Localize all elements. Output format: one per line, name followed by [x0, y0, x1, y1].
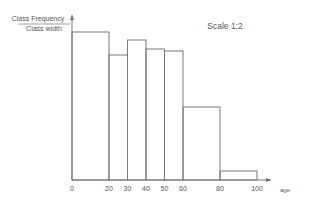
x-tick-label: 50 [161, 185, 169, 192]
x-tick-label: 100 [251, 185, 263, 192]
x-tick-label: 20 [105, 185, 113, 192]
y-axis-arrow-icon [70, 14, 74, 20]
x-tick-label: 80 [216, 185, 224, 192]
x-tick-label: 0 [70, 185, 74, 192]
histogram-chart: 0203040506080100ageClass FrequencyClass … [0, 0, 314, 201]
histogram-bar [165, 51, 184, 180]
scale-annotation: Scale 1:2 [207, 21, 243, 31]
histogram-bar [128, 40, 147, 180]
y-axis-label-numerator: Class Frequency [12, 15, 65, 23]
x-tick-label: 30 [124, 185, 132, 192]
y-axis-label-denominator: Class width [26, 25, 62, 32]
histogram-bar [220, 171, 257, 180]
x-tick-label: 60 [179, 185, 187, 192]
histogram-bar [146, 49, 165, 180]
histogram-bar [183, 107, 220, 180]
histogram-bar [109, 55, 128, 180]
x-axis-arrow-icon [266, 178, 272, 182]
x-tick-label: 40 [142, 185, 150, 192]
x-axis-label: age [280, 187, 291, 193]
histogram-bar [72, 32, 109, 180]
